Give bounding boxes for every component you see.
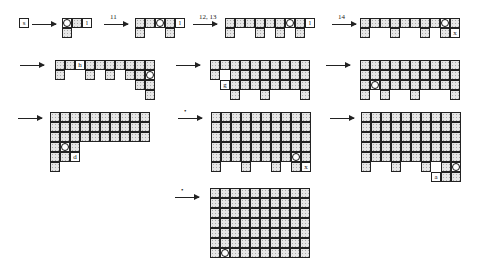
grid-cell	[270, 60, 280, 70]
grid-cell	[300, 198, 310, 208]
grid-cell	[451, 142, 461, 152]
grid-cell	[360, 90, 370, 100]
grid-cell	[401, 152, 411, 162]
grid-cell	[145, 90, 155, 100]
grid-cell	[275, 18, 285, 28]
cell-letter: l	[83, 19, 91, 27]
arrow-icon	[332, 24, 356, 25]
grid-cell	[451, 172, 461, 182]
grid-cell	[261, 112, 271, 122]
grid-cell	[250, 198, 260, 208]
grid-cell	[291, 142, 301, 152]
grid-cell	[450, 90, 460, 100]
grid-cell	[251, 112, 261, 122]
grid-cell	[241, 152, 251, 162]
grid-cell	[240, 80, 250, 90]
grid-cell	[240, 198, 250, 208]
grid-cell	[80, 132, 90, 142]
grid-cell	[391, 152, 401, 162]
grid-cell	[401, 112, 411, 122]
grid-cell	[220, 238, 230, 248]
grid-cell	[280, 198, 290, 208]
grid-cell	[451, 112, 461, 122]
grid-cell	[135, 18, 145, 28]
arrow-icon	[176, 65, 200, 66]
grid-cell	[400, 70, 410, 80]
grid-cell	[231, 132, 241, 142]
grid-cell	[135, 60, 145, 70]
grid-cell	[240, 218, 250, 228]
grid-cell	[361, 152, 371, 162]
grid-cell	[270, 218, 280, 228]
grid-cell	[431, 152, 441, 162]
grid-cell	[140, 112, 150, 122]
grid-cell	[410, 60, 420, 70]
grid-cell	[221, 142, 231, 152]
cell-letter: d	[71, 153, 79, 161]
grid-cell	[290, 228, 300, 238]
grid-cell	[300, 80, 310, 90]
grid-cell	[441, 142, 451, 152]
grid-cell	[261, 142, 271, 152]
grid-cell	[90, 132, 100, 142]
grid-cell	[271, 132, 281, 142]
grid-cell	[210, 248, 220, 258]
grid-cell	[440, 18, 450, 28]
grid-cell: x	[301, 162, 311, 172]
grid-cell	[280, 80, 290, 90]
grid-cell	[280, 70, 290, 80]
grid-cell: s	[19, 18, 29, 28]
grid-cell	[240, 60, 250, 70]
grid-cell	[135, 80, 145, 90]
grid-cell	[290, 60, 300, 70]
grid-cell	[100, 122, 110, 132]
grid-cell	[360, 80, 370, 90]
grid-cell	[421, 152, 431, 162]
grid-cell	[410, 70, 420, 80]
grid-cell	[250, 218, 260, 228]
grid-cell	[251, 132, 261, 142]
cell-letter: l	[306, 19, 314, 27]
cell-letter: g	[221, 81, 229, 89]
grid-cell	[300, 248, 310, 258]
grid-cell	[421, 142, 431, 152]
grid-cell	[255, 28, 265, 38]
grid-cell	[301, 122, 311, 132]
grid-cell	[391, 122, 401, 132]
grid-cell	[270, 238, 280, 248]
grid-cell	[270, 208, 280, 218]
grid-cell	[290, 238, 300, 248]
grid-cell	[401, 132, 411, 142]
grid-cell	[210, 188, 220, 198]
grid-cell	[270, 70, 280, 80]
grid-cell	[390, 70, 400, 80]
grid-cell	[60, 132, 70, 142]
grid-cell	[210, 238, 220, 248]
arrow-icon	[178, 118, 202, 119]
grid-cell	[380, 90, 390, 100]
arrow-label: •	[184, 107, 186, 115]
grid-cell	[250, 70, 260, 80]
grid-cell	[225, 28, 235, 38]
grid-cell	[300, 208, 310, 218]
grid-cell	[105, 60, 115, 70]
grid-cell	[370, 80, 380, 90]
grid-cell	[140, 122, 150, 132]
grid-cell	[145, 80, 155, 90]
grid-cell	[271, 152, 281, 162]
grid-cell	[255, 18, 265, 28]
grid-cell	[230, 80, 240, 90]
grid-cell	[450, 18, 460, 28]
circle-marker-icon	[286, 19, 294, 27]
grid-cell	[270, 228, 280, 238]
grid-cell	[300, 60, 310, 70]
grid-cell	[270, 248, 280, 258]
arrow-icon	[32, 24, 56, 25]
grid-cell	[241, 132, 251, 142]
grid-cell	[260, 188, 270, 198]
grid-cell	[280, 60, 290, 70]
grid-cell	[290, 208, 300, 218]
grid-cell	[420, 80, 430, 90]
grid-cell	[62, 18, 72, 28]
grid-cell	[301, 152, 311, 162]
